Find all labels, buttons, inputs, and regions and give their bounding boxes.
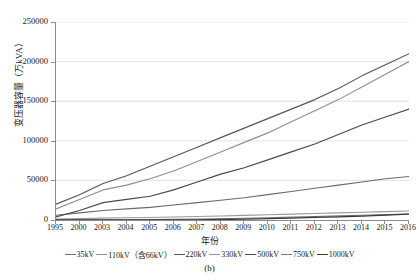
legend-item-750kV[interactable]: 750kV — [281, 250, 315, 259]
legend-item-110kV（含66kV）[interactable]: 110kV（含66kV） — [96, 249, 171, 260]
x-tick-label-2000: 2000 — [71, 223, 87, 232]
x-tick-label-2006: 2006 — [165, 223, 181, 232]
legend-label: 330kV — [221, 250, 243, 259]
legend-label: 750kV — [293, 250, 315, 259]
x-tick-label-2004: 2004 — [118, 223, 134, 232]
series-line-110kV（含66kV） — [56, 62, 409, 209]
x-tick-label-2014: 2014 — [353, 223, 369, 232]
y-tick-label: 200000 — [23, 56, 49, 66]
x-tick-label-2013: 2013 — [329, 223, 345, 232]
x-tick-label-2011: 2011 — [282, 223, 298, 232]
series-line-220kV — [56, 54, 409, 204]
plot-area — [55, 22, 409, 221]
y-tick-label: 150000 — [23, 95, 49, 105]
legend-item-1000kV[interactable]: 1000kV — [317, 250, 355, 259]
x-tick-label-2012: 2012 — [306, 223, 322, 232]
x-tick-label-2016: 2016 — [400, 223, 416, 232]
figure-container: 变压器容量（万kVA） 0500001000001500002000002500… — [0, 0, 419, 280]
x-tick-label-2007: 2007 — [188, 223, 204, 232]
legend-item-330kV[interactable]: 330kV — [209, 250, 243, 259]
legend-swatch-icon — [65, 254, 76, 255]
x-tick-label-2008: 2008 — [212, 223, 228, 232]
x-tick-label-2009: 2009 — [235, 223, 251, 232]
x-tick-label-2010: 2010 — [259, 223, 275, 232]
legend-label: 500kV — [257, 250, 279, 259]
chart-legend: 35kV110kV（含66kV）220kV330kV500kV750kV1000… — [0, 249, 419, 260]
legend-label: 110kV（含66kV） — [108, 249, 171, 260]
y-tick-label: 100000 — [23, 135, 49, 145]
series-line-35kV — [56, 176, 409, 215]
legend-swatch-icon — [281, 254, 292, 255]
legend-swatch-icon — [174, 254, 185, 255]
legend-item-220kV[interactable]: 220kV — [174, 250, 208, 259]
legend-swatch-icon — [245, 254, 256, 255]
chart-lines-svg — [56, 22, 409, 220]
series-line-500kV — [56, 109, 409, 217]
y-axis-tick-labels: 050000100000150000200000250000 — [0, 0, 55, 220]
x-tick-label-2003: 2003 — [94, 223, 110, 232]
y-tick-label: 250000 — [23, 16, 49, 26]
x-tick-label-2015: 2015 — [376, 223, 392, 232]
x-axis-tick-labels: 1995200020032004200520062007200820092010… — [55, 221, 408, 235]
y-tick-label: 50000 — [27, 174, 48, 184]
legend-label: 1000kV — [329, 250, 355, 259]
figure-caption: (b) — [0, 263, 419, 273]
legend-item-500kV[interactable]: 500kV — [245, 250, 279, 259]
legend-swatch-icon — [209, 254, 220, 255]
x-tick-label-2005: 2005 — [141, 223, 157, 232]
legend-swatch-icon — [317, 254, 328, 255]
legend-label: 35kV — [77, 250, 95, 259]
x-tick-label-1995: 1995 — [47, 223, 63, 232]
legend-label: 220kV — [186, 250, 208, 259]
legend-swatch-icon — [96, 254, 107, 255]
x-axis-title: 年份 — [0, 234, 419, 247]
legend-item-35kV[interactable]: 35kV — [65, 250, 95, 259]
